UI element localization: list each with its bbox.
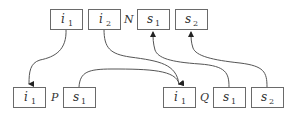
cell-q-s1-base: s <box>223 90 229 104</box>
record-p: i 1 P s 1 <box>14 88 96 108</box>
cell-q-i1-sub: 1 <box>181 97 186 106</box>
cell-p-s1: s 1 <box>64 88 96 108</box>
cell-n-s1: s 1 <box>138 10 170 30</box>
record-label-p: P <box>50 91 59 104</box>
edge-p-s1-to-q-i1 <box>79 69 179 87</box>
edge-q-s2-to-n-s2 <box>191 32 267 87</box>
cell-n-s1-sub: 1 <box>155 19 160 28</box>
cell-q-s2: s 2 <box>252 88 284 108</box>
cell-p-s1-sub: 1 <box>81 97 86 106</box>
cell-n-i1-base: i <box>61 12 65 26</box>
cell-n-s1-base: s <box>147 12 153 26</box>
cell-q-s1-sub: 1 <box>231 97 236 106</box>
cell-q-s2-sub: 2 <box>269 97 274 106</box>
cell-q-i1: i 1 <box>164 88 196 108</box>
cell-q-s1: s 1 <box>214 88 246 108</box>
cell-p-s1-base: s <box>73 90 79 104</box>
diagram-canvas: i 1 i 2 N s 1 s 2 i 1 P s 1 <box>0 0 296 114</box>
cell-q-s2-base: s <box>261 90 267 104</box>
cell-n-i1-sub: 1 <box>68 19 73 28</box>
cell-q-i1-base: i <box>174 90 178 104</box>
cell-n-i2-base: i <box>99 12 103 26</box>
cell-p-i1-base: i <box>24 90 28 104</box>
cell-p-i1-sub: 1 <box>31 97 36 106</box>
record-label-n: N <box>123 13 134 26</box>
edge-n-i2-to-q-i1 <box>104 29 179 84</box>
cell-n-s2-base: s <box>185 12 191 26</box>
cell-n-s2-sub: 2 <box>193 19 198 28</box>
record-n: i 1 i 2 N s 1 s 2 <box>51 10 208 30</box>
record-q: i 1 Q s 1 s 2 <box>164 88 284 108</box>
edge-n-i1-to-p-i1 <box>29 29 66 84</box>
cell-n-s2: s 2 <box>176 10 208 30</box>
edges <box>29 29 267 87</box>
cell-n-i2: i 2 <box>89 10 121 30</box>
cell-p-i1: i 1 <box>14 88 46 108</box>
record-label-q: Q <box>200 91 209 104</box>
cell-n-i1: i 1 <box>51 10 83 30</box>
cell-n-i2-sub: 2 <box>106 19 111 28</box>
